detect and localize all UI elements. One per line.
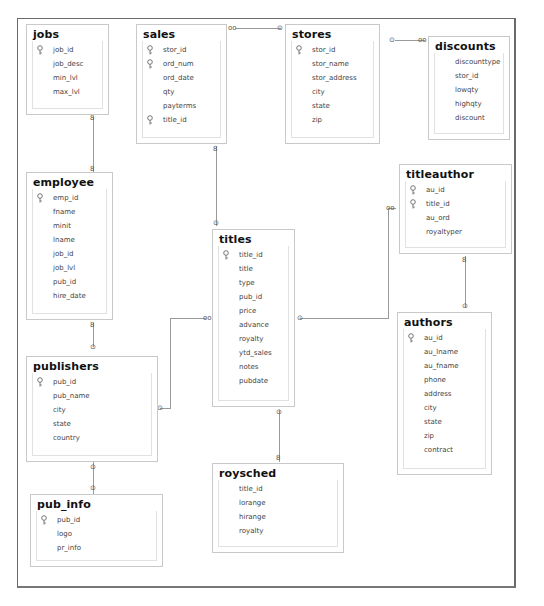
column-row[interactable]: job_id bbox=[33, 43, 83, 57]
column-name: contract bbox=[424, 446, 453, 454]
column-row[interactable]: pub_id bbox=[37, 513, 81, 527]
column-name: pub_id bbox=[53, 378, 76, 386]
column-row[interactable]: pr_info bbox=[37, 541, 81, 555]
connector-sales-stores bbox=[236, 28, 281, 29]
column-row[interactable]: title_id bbox=[143, 113, 196, 127]
column-row[interactable]: lname bbox=[33, 233, 86, 247]
column-row[interactable]: pub_id bbox=[33, 375, 90, 389]
table-discounts[interactable]: discountsdiscounttypestor_idlowqtyhighqt… bbox=[428, 36, 510, 140]
many-symbol: 8 bbox=[213, 145, 217, 153]
column-row[interactable]: hire_date bbox=[33, 289, 86, 303]
column-row[interactable]: highqty bbox=[435, 97, 500, 111]
table-title: authors bbox=[404, 316, 453, 329]
column-row[interactable]: state bbox=[404, 415, 459, 429]
column-name: max_lvl bbox=[53, 88, 80, 96]
column-row[interactable]: title bbox=[219, 262, 272, 276]
column-row[interactable]: job_lvl bbox=[33, 261, 86, 275]
column-row[interactable]: city bbox=[292, 85, 357, 99]
column-row[interactable]: fname bbox=[33, 205, 86, 219]
column-row[interactable]: au_ord bbox=[406, 211, 462, 225]
one-symbol: ⊙ bbox=[90, 343, 96, 351]
column-row[interactable]: city bbox=[404, 401, 459, 415]
column-row[interactable]: title_id bbox=[219, 482, 266, 496]
connector-publishers-titles bbox=[170, 318, 171, 409]
one-symbol: ⊙ bbox=[213, 219, 219, 227]
column-row[interactable]: royalty bbox=[219, 332, 272, 346]
column-row[interactable]: contract bbox=[404, 443, 459, 457]
column-name: lname bbox=[53, 236, 75, 244]
table-sales[interactable]: salesstor_idord_numord_dateqtypaytermsti… bbox=[136, 24, 227, 144]
primary-key-icon bbox=[36, 193, 44, 203]
column-row[interactable]: emp_id bbox=[33, 191, 86, 205]
column-list: au_idau_lnameau_fnamephoneaddresscitysta… bbox=[404, 331, 459, 457]
column-row[interactable]: phone bbox=[404, 373, 459, 387]
table-employee[interactable]: employeeemp_idfnameminitlnamejob_idjob_l… bbox=[26, 172, 113, 320]
table-pub-info[interactable]: pub_infopub_idlogopr_info bbox=[30, 494, 163, 567]
column-name: pub_id bbox=[53, 278, 76, 286]
column-row[interactable]: au_lname bbox=[404, 345, 459, 359]
table-title: stores bbox=[292, 28, 331, 41]
column-name: pr_info bbox=[57, 544, 81, 552]
table-titleauthor[interactable]: titleauthorau_idtitle_idau_ordroyaltyper bbox=[399, 164, 512, 254]
column-row[interactable]: min_lvl bbox=[33, 71, 83, 85]
column-row[interactable]: au_fname bbox=[404, 359, 459, 373]
column-row[interactable]: country bbox=[33, 431, 90, 445]
column-row[interactable]: logo bbox=[37, 527, 81, 541]
column-row[interactable]: ord_date bbox=[143, 71, 196, 85]
column-row[interactable]: type bbox=[219, 276, 272, 290]
column-name: stor_address bbox=[312, 74, 357, 82]
column-row[interactable]: title_id bbox=[219, 248, 272, 262]
column-row[interactable]: au_id bbox=[406, 183, 462, 197]
column-row[interactable]: title_id bbox=[406, 197, 462, 211]
column-row[interactable]: price bbox=[219, 304, 272, 318]
column-row[interactable]: pubdate bbox=[219, 374, 272, 388]
column-name: state bbox=[53, 420, 71, 428]
column-row[interactable]: payterms bbox=[143, 99, 196, 113]
column-row[interactable]: city bbox=[33, 403, 90, 417]
column-row[interactable]: address bbox=[404, 387, 459, 401]
column-row[interactable]: advance bbox=[219, 318, 272, 332]
column-row[interactable]: lowqty bbox=[435, 83, 500, 97]
column-name: state bbox=[312, 102, 330, 110]
column-row[interactable]: qty bbox=[143, 85, 196, 99]
column-row[interactable]: ord_num bbox=[143, 57, 196, 71]
column-row[interactable]: pub_name bbox=[33, 389, 90, 403]
column-row[interactable]: stor_address bbox=[292, 71, 357, 85]
column-row[interactable]: max_lvl bbox=[33, 85, 83, 99]
table-authors[interactable]: authorsau_idau_lnameau_fnamephoneaddress… bbox=[397, 312, 492, 475]
column-row[interactable]: zip bbox=[292, 113, 357, 127]
table-stores[interactable]: storesstor_idstor_namestor_addresscityst… bbox=[285, 24, 380, 144]
column-row[interactable]: pub_id bbox=[219, 290, 272, 304]
column-row[interactable]: ytd_sales bbox=[219, 346, 272, 360]
one-symbol: ⊙ bbox=[462, 302, 468, 310]
column-row[interactable]: notes bbox=[219, 360, 272, 374]
column-name: fname bbox=[53, 208, 75, 216]
primary-key-icon bbox=[407, 333, 415, 343]
one-symbol: 8 bbox=[90, 114, 94, 122]
table-roysched[interactable]: royschedtitle_idlorangehirangeroyalty bbox=[212, 463, 344, 553]
column-row[interactable]: discounttype bbox=[435, 55, 500, 69]
column-list: title_idlorangehirangeroyalty bbox=[219, 482, 266, 538]
column-row[interactable]: stor_name bbox=[292, 57, 357, 71]
column-row[interactable]: state bbox=[292, 99, 357, 113]
table-titles[interactable]: titlestitle_idtitletypepub_idpriceadvanc… bbox=[212, 229, 295, 407]
column-row[interactable]: royalty bbox=[219, 524, 266, 538]
table-title: jobs bbox=[33, 28, 59, 41]
column-row[interactable]: state bbox=[33, 417, 90, 431]
column-row[interactable]: au_id bbox=[404, 331, 459, 345]
column-row[interactable]: discount bbox=[435, 111, 500, 125]
column-row[interactable]: pub_id bbox=[33, 275, 86, 289]
column-row[interactable]: stor_id bbox=[435, 69, 500, 83]
table-jobs[interactable]: jobsjob_idjob_descmin_lvlmax_lvl bbox=[26, 24, 109, 115]
column-row[interactable]: job_id bbox=[33, 247, 86, 261]
column-row[interactable]: job_desc bbox=[33, 57, 83, 71]
column-row[interactable]: minit bbox=[33, 219, 86, 233]
column-row[interactable]: stor_id bbox=[143, 43, 196, 57]
column-list: discounttypestor_idlowqtyhighqtydiscount bbox=[435, 55, 500, 125]
table-publishers[interactable]: publisherspub_idpub_namecitystatecountry bbox=[26, 356, 158, 462]
column-row[interactable]: royaltyper bbox=[406, 225, 462, 239]
column-row[interactable]: stor_id bbox=[292, 43, 357, 57]
column-row[interactable]: hirange bbox=[219, 510, 266, 524]
column-row[interactable]: lorange bbox=[219, 496, 266, 510]
column-row[interactable]: zip bbox=[404, 429, 459, 443]
